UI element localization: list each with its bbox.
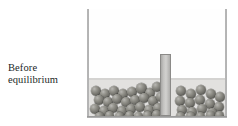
liquid-surface-line bbox=[89, 78, 225, 80]
beaker-floor bbox=[87, 116, 227, 118]
caption-line-2: equilibrium bbox=[8, 74, 82, 86]
beaker-divider-barrier bbox=[160, 54, 171, 116]
liquid-region bbox=[89, 78, 225, 116]
molecule-sphere bbox=[196, 85, 206, 95]
beaker-container bbox=[87, 9, 227, 118]
beaker-wall-right bbox=[225, 9, 227, 118]
figure-canvas: Before equilibrium bbox=[0, 0, 238, 126]
figure-caption: Before equilibrium bbox=[8, 62, 82, 86]
beaker-wall-left bbox=[87, 9, 89, 118]
molecule-sphere bbox=[215, 92, 225, 102]
molecule-sphere bbox=[176, 86, 186, 96]
caption-line-1: Before bbox=[8, 62, 82, 74]
beaker-headspace bbox=[89, 9, 225, 78]
